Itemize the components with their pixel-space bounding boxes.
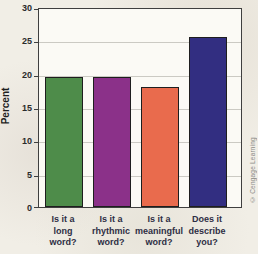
bar	[189, 37, 227, 207]
bar-chart-figure: Percent 051015202530 Is it a long word?I…	[0, 0, 258, 254]
y-tick-mark	[34, 176, 39, 177]
y-tick-mark	[34, 76, 39, 77]
plot-area	[38, 8, 242, 208]
x-category-label: Does it describe you?	[177, 214, 237, 249]
y-tick-mark	[34, 109, 39, 110]
y-tick-mark	[34, 42, 39, 43]
y-tick-mark	[34, 207, 39, 208]
bar	[141, 87, 179, 207]
y-tick-label: 5	[6, 170, 32, 180]
y-tick-label: 10	[6, 136, 32, 146]
y-tick-mark	[34, 9, 39, 10]
y-tick-label: 25	[6, 36, 32, 46]
y-tick-label: 15	[6, 103, 32, 113]
bar	[93, 77, 131, 207]
y-tick-label: 20	[6, 70, 32, 80]
y-tick-label: 30	[6, 3, 32, 13]
copyright-credit: © Cengage Learning	[249, 122, 256, 218]
y-tick-mark	[34, 142, 39, 143]
bar	[45, 77, 83, 207]
y-tick-label: 0	[6, 203, 32, 213]
